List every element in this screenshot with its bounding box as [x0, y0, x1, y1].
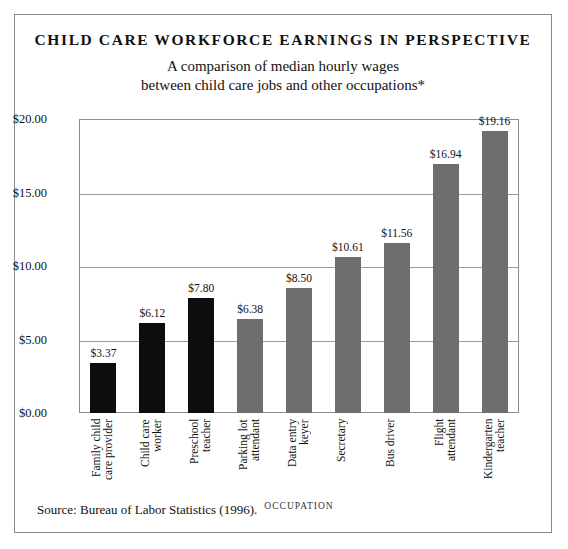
bar [286, 288, 312, 413]
bar [90, 363, 116, 413]
bar [482, 131, 508, 413]
bar-value-label: $11.56 [362, 227, 432, 239]
chart-subtitle-line1: A comparison of median hourly wages [15, 57, 551, 76]
bar-value-label: $6.12 [117, 307, 187, 319]
bar-value-label: $19.16 [460, 115, 530, 127]
bar-value-label: $6.38 [215, 303, 285, 315]
x-axis-category-label: Bus driver [384, 419, 396, 497]
source-note: Source: Bureau of Labor Statistics (1996… [37, 502, 257, 518]
chart-subtitle: A comparison of median hourly wages betw… [15, 57, 551, 95]
x-axis-category-label: Kindergartenteacher [482, 419, 506, 497]
bar-value-label: $10.61 [313, 241, 383, 253]
chart-figure: CHILD CARE WORKFORCE EARNINGS IN PERSPEC… [14, 14, 552, 533]
x-axis-category-label: Preschoolteacher [188, 419, 212, 497]
chart-title: CHILD CARE WORKFORCE EARNINGS IN PERSPEC… [15, 31, 551, 49]
y-axis-tick-label: $15.00 [0, 185, 47, 200]
bar-value-label: $8.50 [264, 272, 334, 284]
bar [188, 298, 214, 413]
bar-value-label: $3.37 [68, 347, 138, 359]
x-axis-category-label: Child careworker [139, 419, 163, 497]
x-axis-category-label: Parking lotattendant [237, 419, 261, 497]
y-axis-tick-label: $20.00 [0, 112, 47, 127]
bar-value-label: $7.80 [166, 282, 236, 294]
x-axis-category-label: Data entrykeyer [286, 419, 310, 497]
bar [335, 257, 361, 413]
bar [237, 319, 263, 413]
y-axis-tick-label: $0.00 [0, 406, 47, 421]
plot-area: $0.00$5.00$10.00$15.00$20.00 $3.37$6.12$… [79, 119, 519, 413]
y-axis-tick-label: $10.00 [0, 259, 47, 274]
x-axis-category-label: Secretary [335, 419, 347, 497]
x-axis-category-label: Family childcare provider [90, 419, 114, 497]
bar [384, 243, 410, 413]
y-axis-tick-label: $5.00 [0, 332, 47, 347]
bar [139, 323, 165, 413]
bar [433, 164, 459, 413]
chart-subtitle-line2: between child care jobs and other occupa… [15, 76, 551, 95]
bar-value-label: $16.94 [411, 148, 481, 160]
x-axis-category-label: Flightattendant [433, 419, 457, 497]
